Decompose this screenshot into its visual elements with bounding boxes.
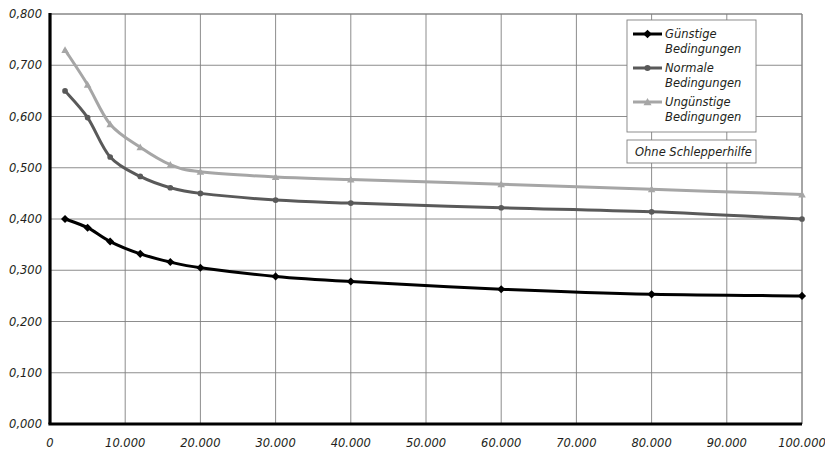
x-tick-label: 80.000 — [631, 436, 671, 450]
y-tick-label: 0,000 — [9, 417, 42, 431]
data-point-marker — [198, 191, 204, 197]
x-tick-label: 10.000 — [105, 436, 145, 450]
data-point-marker — [498, 205, 504, 211]
y-tick-label: 0,800 — [9, 7, 42, 21]
x-tick-label: 40.000 — [331, 436, 371, 450]
y-axis-ticks: 0,0000,1000,2000,3000,4000,5000,6000,700… — [9, 7, 42, 431]
chart-container: 0,0000,1000,2000,3000,4000,5000,6000,700… — [0, 0, 825, 457]
data-point-marker — [799, 216, 805, 222]
x-tick-label: 100.000 — [778, 436, 825, 450]
x-tick-label: 70.000 — [556, 436, 596, 450]
legend-label-line1: Günstige — [665, 27, 717, 41]
legend-box[interactable]: GünstigeBedingungenNormaleBedingungenUng… — [627, 20, 756, 132]
y-tick-label: 0,700 — [9, 58, 42, 72]
legend-label-line1: Ungünstige — [665, 95, 731, 109]
x-tick-label: 30.000 — [255, 436, 295, 450]
data-point-marker — [348, 200, 354, 206]
legend-label-line2: Bedingungen — [665, 110, 741, 124]
data-point-marker — [85, 115, 91, 121]
y-tick-label: 0,500 — [9, 161, 42, 175]
data-point-marker — [273, 197, 279, 203]
data-point-marker — [167, 185, 173, 191]
legend-label-line1: Normale — [665, 61, 714, 75]
data-point-marker — [107, 154, 113, 160]
x-tick-label: 20.000 — [180, 436, 220, 450]
data-point-marker — [649, 209, 655, 215]
y-tick-label: 0,200 — [9, 315, 42, 329]
line-chart: 0,0000,1000,2000,3000,4000,5000,6000,700… — [0, 0, 825, 457]
note-label: Ohne Schlepperhilfe — [635, 145, 752, 159]
y-tick-label: 0,600 — [9, 110, 42, 124]
note-box: Ohne Schlepperhilfe — [627, 140, 756, 163]
data-point-marker — [644, 65, 650, 71]
x-tick-label: 60.000 — [481, 436, 521, 450]
x-tick-label: 90.000 — [707, 436, 747, 450]
legend-label-line2: Bedingungen — [665, 42, 741, 56]
data-point-marker — [62, 88, 68, 94]
legend-label-line2: Bedingungen — [665, 76, 741, 90]
y-tick-label: 0,400 — [9, 212, 42, 226]
y-tick-label: 0,100 — [9, 366, 42, 380]
x-tick-label: 0 — [46, 436, 53, 450]
data-point-marker — [137, 174, 143, 180]
x-tick-label: 50.000 — [406, 436, 446, 450]
y-tick-label: 0,300 — [9, 263, 42, 277]
